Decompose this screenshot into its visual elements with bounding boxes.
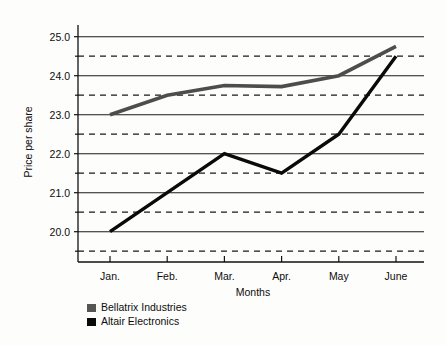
legend: Bellatrix IndustriesAltair Electronics [87, 301, 187, 327]
x-tick-label: Jan. [100, 270, 120, 282]
legend-label: Bellatrix Industries [101, 301, 187, 313]
legend-swatch [87, 318, 96, 326]
y-tick-label: 22.0 [50, 148, 71, 160]
series-group [110, 46, 396, 231]
y-axis-title: Price per share [22, 106, 34, 177]
chart-figure: 20.021.022.023.024.025.0Jan.Feb.Mar.Apr.… [0, 0, 446, 345]
legend-swatch [87, 304, 96, 312]
y-tick-labels: 20.021.022.023.024.025.0 [50, 31, 71, 238]
x-tick-label: May [329, 270, 350, 282]
x-tick-label: June [385, 270, 408, 282]
y-tick-label: 23.0 [50, 109, 71, 121]
x-tick-label: Mar. [214, 270, 234, 282]
x-tick-labels: Jan.Feb.Mar.Apr.MayJune [100, 270, 407, 282]
x-tick-label: Apr. [272, 270, 291, 282]
legend-label: Altair Electronics [101, 315, 179, 327]
x-tick-label: Feb. [157, 270, 178, 282]
y-tick-label: 24.0 [50, 70, 71, 82]
y-tick-label: 20.0 [50, 226, 71, 238]
x-axis-title: Months [236, 286, 270, 298]
line-chart: 20.021.022.023.024.025.0Jan.Feb.Mar.Apr.… [0, 0, 446, 345]
y-tick-label: 21.0 [50, 187, 71, 199]
y-tick-label: 25.0 [50, 31, 71, 43]
series-line-altair [110, 56, 396, 232]
